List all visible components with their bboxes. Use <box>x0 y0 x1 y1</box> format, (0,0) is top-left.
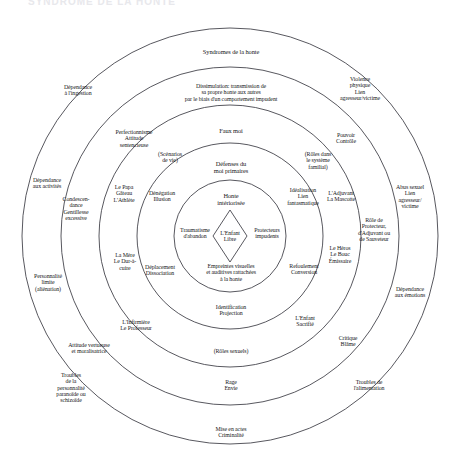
label-role-de-protecteur: Rôle de Protecteur, d'Adjuvant ou de Sau… <box>358 217 390 242</box>
label-l-enfant-sacrifie: L'Enfant Sacrifié <box>295 315 315 328</box>
label-perfectionnisme: Perfectionnisme Attitude sentencieuse <box>116 129 153 148</box>
label-mise-en-actes-criminalite: Mise en actes Criminalité <box>216 426 247 439</box>
label-deplacement-dissociation: Déplacement Dissociation <box>145 264 175 277</box>
label-critique-blame: Critique Blâme <box>339 335 358 348</box>
label-condescendance: Condescen- dance Gentillesse excessive <box>63 196 90 221</box>
label-faux-moi: Faux moi <box>219 128 243 135</box>
label-dependance-aux-emotions: Dépendance aux émotions <box>395 286 425 299</box>
label-traumatisme-d-abandon: Traumatisme d'abandon <box>180 227 210 240</box>
label-scenarios-de-vie: (Scénarios de vie) <box>158 151 182 164</box>
label-troubles-alimentation: Troubles de l'alimentation <box>354 379 385 392</box>
label-l-adjuvant-la-mascotte: L'Adjuvant La Mascotte <box>327 190 355 203</box>
label-dependance-aux-activites: Dépendance aux activités <box>33 177 61 190</box>
label-syndromes-de-la-honte: Syndromes de la honte <box>203 49 259 56</box>
label-abus-sexuel: Abus sexuel Lien agresseur/ victime <box>396 184 424 209</box>
label-honte-interiorisee: Honte intériorisée <box>217 193 245 207</box>
label-denegation-illusion: Dénégation Illusion <box>149 190 175 203</box>
label-le-papa-gateau: Le Papa Gâteau L'Athlète <box>113 184 134 203</box>
label-personnalite-limite: Personnalité limite (aliénation) <box>34 273 62 292</box>
label-pouvoir-controle: Pouvoir Contrôle <box>336 132 356 145</box>
label-la-mere-le-dur-a-cuire: La Mère Le Dur-à- cuire <box>114 252 136 271</box>
label-rage-envie: Rage Envie <box>224 379 237 392</box>
label-dissimulation: Dissimulation: transmission de sa propre… <box>185 83 278 102</box>
label-defenses-du-moi-primaires: Défenses du moi primaires <box>214 161 248 175</box>
label-troubles-personnalite: Troubles de la personnalité paranoïde ou… <box>56 372 85 403</box>
label-idealisation: Idéalisation Lien fantasmatique <box>287 187 319 206</box>
label-dependance-a-l-ingestion: Dépendance à l'ingestion <box>64 84 92 97</box>
label-attitude-vertueuse: Attitude vertueuse et moralisatrice <box>68 342 110 355</box>
core-label-enfant-libre: L'Enfant Libre <box>220 230 240 243</box>
shame-syndrome-diagram: SYNDROME DE LA HONTE Syndromes de la hon… <box>0 0 457 474</box>
label-identification-projection: Identification Projection <box>216 304 246 317</box>
label-roles-systeme-familial: (Rôles dans le système familial) <box>305 151 332 170</box>
label-l-infirmiere-le-professeur: L'Infirmière Le Professeur <box>120 319 151 332</box>
label-roles-sexuels: (Rôles sexuels) <box>214 348 249 354</box>
label-le-heros-le-bouc-emissaire: Le Héros Le Bouc Émissaire <box>329 245 351 264</box>
label-protecteurs-impudents: Protecteurs impudents <box>254 227 279 240</box>
label-refoulement-conversion: Refoulement Conversion <box>289 263 318 276</box>
label-violence-physique: Violence physique Lien agresseur/victime <box>340 76 380 101</box>
label-empreintes-visuelles: Empreintes visuelles et auditives rattac… <box>206 263 256 282</box>
